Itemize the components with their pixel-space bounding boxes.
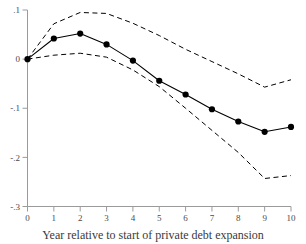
y-tick-label: -.3 (10, 202, 20, 212)
x-tick-label: 5 (157, 213, 162, 223)
x-tick-label: 9 (262, 213, 267, 223)
x-axis-title: Year relative to start of private debt e… (42, 228, 264, 242)
data-point-marker (24, 56, 30, 62)
y-tick-label: -.1 (10, 103, 20, 113)
chart-figure: .10-.1-.2-.3 012345678910 Year relative … (0, 0, 306, 244)
data-point-marker (130, 58, 136, 64)
x-tick-label: 0 (25, 213, 30, 223)
y-tick-label: -.2 (10, 153, 20, 163)
data-point-marker (183, 91, 189, 97)
x-tick-label: 1 (52, 213, 57, 223)
x-tick-label: 3 (104, 213, 109, 223)
data-point-marker (77, 30, 83, 36)
data-point-marker (288, 124, 294, 130)
data-point-marker (262, 129, 268, 135)
y-tick-label: 0 (16, 54, 21, 64)
data-point-marker (103, 41, 109, 47)
x-tick-label: 8 (236, 213, 241, 223)
data-point-marker (209, 106, 215, 112)
x-tick-label: 7 (210, 213, 215, 223)
data-point-marker (51, 35, 57, 41)
y-tick-label: .1 (13, 5, 20, 15)
x-tick-label: 10 (287, 213, 297, 223)
x-tick-label: 2 (78, 213, 83, 223)
x-tick-label: 4 (131, 213, 136, 223)
x-tick-label: 6 (183, 213, 188, 223)
line-chart-plot: .10-.1-.2-.3 012345678910 Year relative … (0, 0, 306, 244)
data-point-marker (235, 118, 241, 124)
data-point-marker (156, 78, 162, 84)
chart-background (0, 0, 306, 244)
